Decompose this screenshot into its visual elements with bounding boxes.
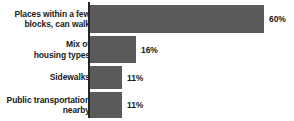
bar-row: Mix of housing types 16% bbox=[0, 36, 294, 63]
bar-row: Public transportation nearby 11% bbox=[0, 92, 294, 118]
bar-value-label: 11% bbox=[127, 73, 143, 83]
bar-category-label: Places within a few blocks, can walk bbox=[4, 5, 90, 33]
bar-track: 11% bbox=[90, 66, 122, 89]
bar-chart: Places within a few blocks, can walk 60%… bbox=[0, 0, 294, 121]
bar-track: 60% bbox=[90, 5, 264, 33]
bar-value-label: 60% bbox=[269, 14, 286, 24]
category-axis-line bbox=[88, 2, 90, 118]
bar-row: Sidewalks 11% bbox=[0, 66, 294, 89]
bar-category-label: Public transportation nearby bbox=[4, 92, 90, 118]
bar-fill bbox=[90, 5, 264, 33]
bar-track: 16% bbox=[90, 36, 136, 63]
bar-category-label: Sidewalks bbox=[4, 66, 90, 89]
bar-value-label: 16% bbox=[141, 45, 158, 55]
bar-fill bbox=[90, 66, 122, 89]
bar-track: 11% bbox=[90, 92, 122, 118]
bar-fill bbox=[90, 36, 136, 63]
bar-fill bbox=[90, 92, 122, 118]
bar-category-label: Mix of housing types bbox=[4, 36, 90, 63]
chart-plot-area: Places within a few blocks, can walk 60%… bbox=[0, 0, 294, 121]
bar-row: Places within a few blocks, can walk 60% bbox=[0, 5, 294, 33]
bar-value-label: 11% bbox=[127, 100, 143, 110]
